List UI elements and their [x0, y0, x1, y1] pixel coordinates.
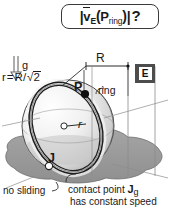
point-p-label: P — [74, 81, 82, 94]
radius-relation-equals: = — [7, 71, 14, 83]
point-symbol: P — [100, 9, 108, 24]
sqrt-group: √2 — [26, 72, 40, 84]
frame-badge-e-letter: E — [139, 67, 152, 80]
big-radius-label: R — [96, 52, 105, 64]
no-sliding-leader — [52, 182, 58, 191]
velocity-question-expression: |vE(Pring)|? — [80, 8, 141, 26]
no-sliding-caption: no sliding — [3, 186, 45, 196]
question-mark: ? — [131, 7, 140, 24]
contact-point-text: contact point — [68, 184, 127, 195]
point-j-label: J — [48, 152, 55, 165]
contact-point-caption-line2: has constant speed — [70, 197, 157, 207]
velocity-vector-symbol: v — [83, 9, 90, 24]
point-subscript: ring — [109, 16, 122, 26]
velocity-question-box: |vE(Pring)|? — [61, 4, 159, 29]
gravity-label: g — [22, 60, 28, 71]
diagram-artwork — [0, 0, 170, 212]
frame-badge-e: E — [135, 64, 155, 83]
radius-relation-lhs: r — [2, 71, 6, 83]
physics-figure-rolling-ball: |vE(Pring)|? g r=R/√2 R P ring r J E no … — [0, 0, 170, 212]
ring-label: ring — [98, 85, 116, 96]
small-radius-label: r — [78, 119, 82, 131]
abs-bar-close: | — [127, 9, 131, 25]
radius-relation-numerator: R — [15, 71, 23, 83]
radius-relation-label: r=R/√2 — [2, 72, 40, 84]
sqrt-radicand: 2 — [33, 72, 39, 84]
